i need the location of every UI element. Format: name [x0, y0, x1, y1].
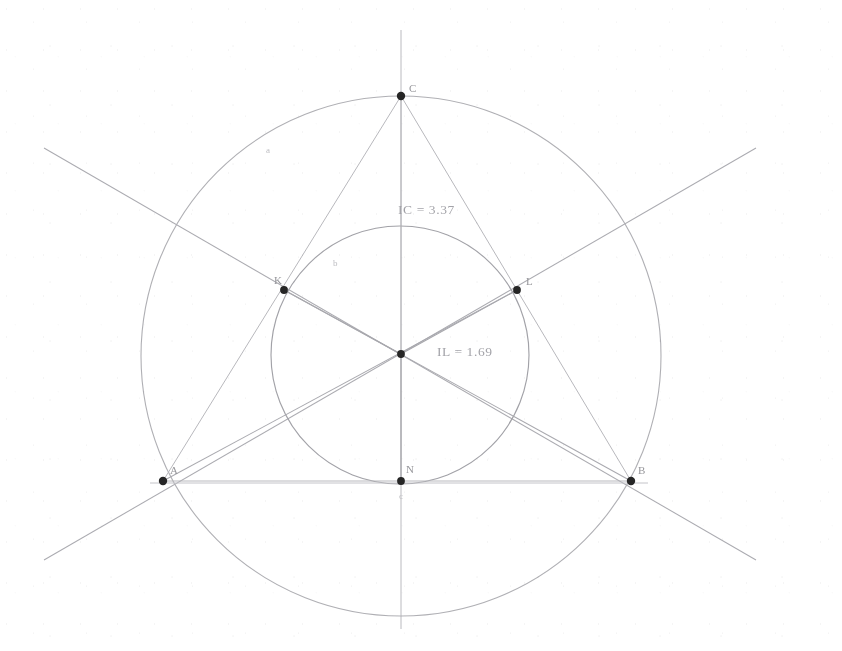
- bisector-lines-group: [44, 30, 756, 629]
- cevian-A-to-L: [163, 290, 517, 481]
- measurement-IC[interactable]: IC = 3.37: [398, 202, 455, 217]
- geometry-figure-canvas: C A B K L N a b c IC = 3.37 IL = 1.69: [0, 0, 842, 651]
- point-C[interactable]: [397, 92, 405, 100]
- cevian-segments-group: [163, 96, 631, 481]
- measurement-IL[interactable]: IL = 1.69: [437, 344, 493, 359]
- faint-label-below-n: c: [399, 491, 403, 501]
- point-I-incenter[interactable]: [397, 350, 405, 358]
- faint-label-arc-b: b: [333, 258, 338, 268]
- point-K[interactable]: [280, 286, 288, 294]
- point-label-N: N: [406, 463, 414, 475]
- construction-layer: C A B K L N a b c IC = 3.37 IL = 1.69: [44, 30, 756, 629]
- geometry-svg: C A B K L N a b c IC = 3.37 IL = 1.69: [0, 0, 842, 651]
- point-N[interactable]: [397, 477, 405, 485]
- point-label-C: C: [409, 82, 416, 94]
- point-label-A: A: [170, 464, 178, 476]
- point-label-K: K: [274, 274, 282, 286]
- point-A[interactable]: [159, 477, 167, 485]
- point-label-L: L: [526, 275, 533, 287]
- point-L[interactable]: [513, 286, 521, 294]
- faint-label-arc-a: a: [266, 145, 270, 155]
- point-B[interactable]: [627, 477, 635, 485]
- point-labels-group: C A B K L N: [170, 82, 645, 476]
- points-group: [159, 92, 635, 485]
- cevian-B-to-K: [284, 290, 631, 481]
- faint-labels-group: a b c: [266, 145, 403, 501]
- point-label-B: B: [638, 464, 645, 476]
- triangle-ABC: [163, 96, 631, 481]
